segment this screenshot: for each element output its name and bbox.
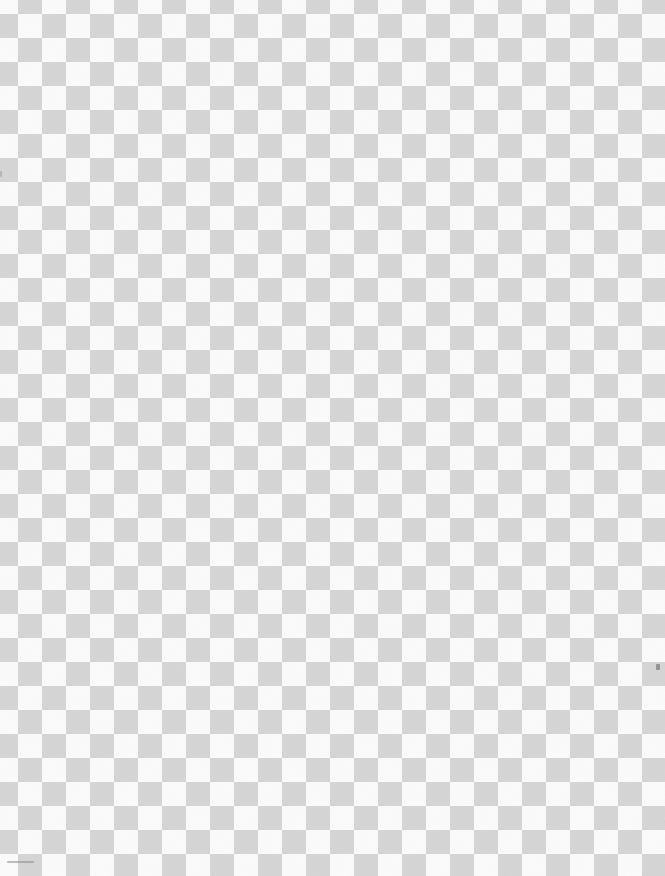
transparent-canvas-view — [0, 0, 665, 876]
transparency-checkerboard — [0, 0, 665, 876]
